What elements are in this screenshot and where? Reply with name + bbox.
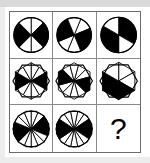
matrix-cell-row-2-col-1[interactable] (10, 59, 53, 106)
matrix-cell-row-3-col-2[interactable] (53, 105, 96, 152)
scan-edge-left (0, 0, 5, 163)
circle-8-sectors-a (10, 13, 52, 57)
circle-6-sectors (97, 13, 140, 57)
matrix-cell-row-1-col-2[interactable] (53, 12, 96, 59)
matrix-grid: ? (10, 12, 140, 152)
hexagon-12-sectors-b (53, 59, 95, 103)
hexagon-6-sectors (97, 59, 140, 103)
matrix-cell-row-3-col-3[interactable]: ? (97, 105, 140, 152)
circle-8-sectors-b (53, 13, 95, 57)
dodecagon-16-sectors-a (10, 107, 52, 151)
dodecagon-16-sectors-b (53, 107, 95, 151)
scan-edge-bottom (0, 157, 150, 163)
puzzle-page: ? (0, 0, 150, 163)
question-mark-glyph: ? (110, 114, 127, 144)
matrix-cell-row-1-col-1[interactable] (10, 12, 53, 59)
matrix-frame: ? (9, 11, 141, 153)
hexagon-12-sectors-a (10, 59, 52, 103)
scan-edge-top (0, 0, 150, 7)
matrix-cell-row-3-col-1[interactable] (10, 105, 53, 152)
matrix-cell-row-2-col-2[interactable] (53, 59, 96, 106)
matrix-cell-row-1-col-3[interactable] (97, 12, 140, 59)
matrix-cell-row-2-col-3[interactable] (97, 59, 140, 106)
